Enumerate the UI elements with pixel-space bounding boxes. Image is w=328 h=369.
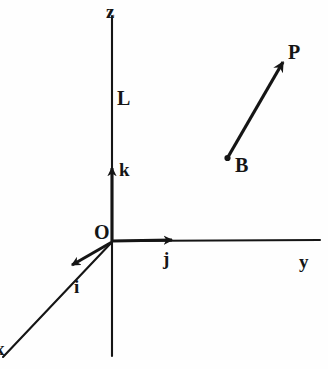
axis-label-y: y <box>299 252 309 271</box>
point-label-p: P <box>288 42 300 62</box>
axis-group <box>3 16 320 357</box>
unit-vector-i-arrow <box>72 242 112 265</box>
coordinate-system-figure: z y x k j i O B P L <box>0 0 328 369</box>
vector-bp-group <box>224 62 283 161</box>
unit-vector-label-k: k <box>119 160 130 179</box>
unit-vector-group <box>72 168 172 265</box>
figure-drawing-canvas <box>0 0 328 369</box>
point-label-o: O <box>94 222 110 242</box>
unit-vector-label-j: j <box>163 249 169 268</box>
length-label-l: L <box>117 88 130 108</box>
point-label-b: B <box>235 155 248 175</box>
vector-bp-arrow <box>228 62 283 157</box>
unit-vector-label-i: i <box>74 277 79 296</box>
unit-vector-j-arrow <box>112 240 172 241</box>
axis-label-x: x <box>0 339 5 358</box>
axis-line-x <box>3 242 112 357</box>
axis-label-z: z <box>106 2 114 21</box>
